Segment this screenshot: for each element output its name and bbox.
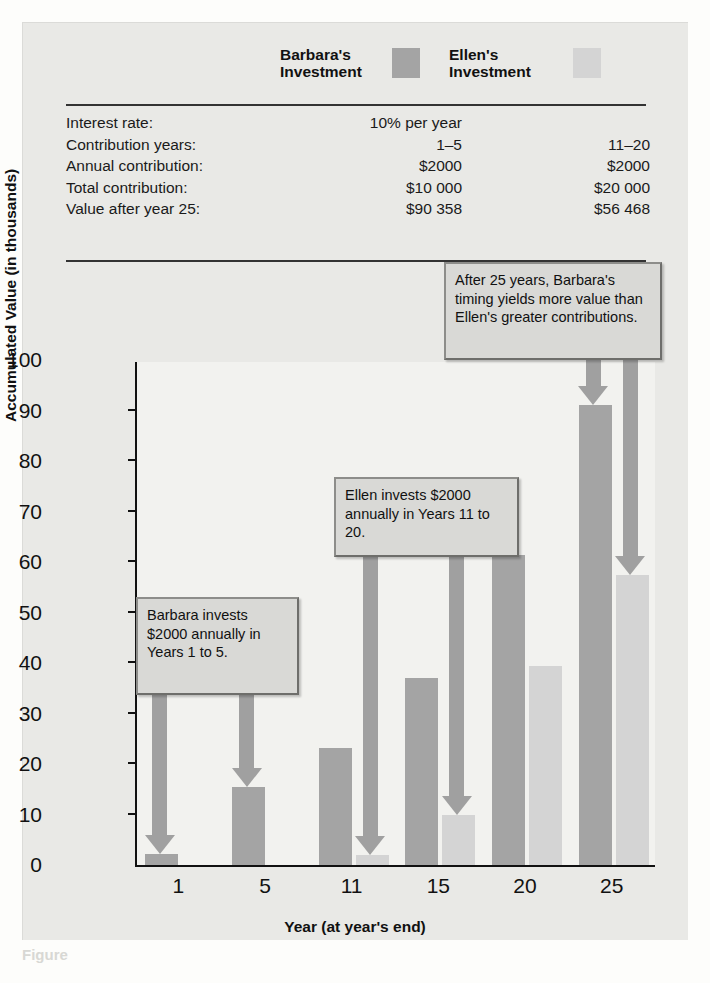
bar-ellen (442, 815, 475, 865)
x-tick-label: 1 (148, 874, 208, 898)
chart-legend: Barbara's InvestmentBarbara'sInvestment … (22, 22, 688, 94)
y-tick-label: 40 (0, 651, 42, 675)
row-value-ellen: $20 000 (464, 179, 650, 197)
row-value-barbara: 1–5 (266, 136, 462, 154)
x-tick-label: 20 (495, 874, 555, 898)
y-tick-label: 100 (0, 348, 42, 372)
y-tick-mark (128, 510, 137, 512)
y-tick-mark (128, 762, 137, 764)
x-tick-label: 15 (408, 874, 468, 898)
y-tick-mark (128, 409, 137, 411)
y-tick-mark (128, 459, 137, 461)
row-value-ellen: $56 468 (464, 200, 650, 218)
row-value-ellen: 11–20 (464, 136, 650, 154)
legend-label-ellen: Ellen'sInvestment (449, 46, 531, 80)
legend-label-barbara: Barbara's InvestmentBarbara'sInvestment (280, 46, 362, 80)
y-axis-title: Accumulated Value (in thousands) (2, 169, 20, 422)
legend-swatch-barbara (392, 48, 420, 78)
bar-ellen (529, 666, 562, 865)
bar-barbara (145, 854, 178, 865)
legend-swatch-ellen (573, 48, 601, 78)
table-row: Interest rate: 10% per year (66, 114, 646, 136)
row-label: Interest rate: (66, 114, 153, 132)
y-tick-label: 60 (0, 550, 42, 574)
row-value-barbara: $2000 (266, 157, 462, 175)
table-row: Total contribution: $10 000 $20 000 (66, 179, 646, 201)
bar-barbara (405, 678, 438, 865)
y-tick-mark (128, 813, 137, 815)
y-tick-mark (128, 712, 137, 714)
y-tick-label: 0 (0, 853, 42, 877)
y-tick-mark (128, 560, 137, 562)
summary-table: Interest rate: 10% per year Contribution… (66, 114, 646, 222)
callout-summary: After 25 years, Barbara's timing yields … (444, 262, 662, 360)
row-label: Contribution years: (66, 136, 196, 154)
x-tick-label: 25 (582, 874, 642, 898)
bar-barbara (579, 405, 612, 865)
bar-barbara (319, 748, 352, 865)
figure-panel: Barbara's InvestmentBarbara'sInvestment … (22, 22, 688, 940)
table-row: Annual contribution: $2000 $2000 (66, 157, 646, 179)
y-tick-label: 50 (0, 601, 42, 625)
y-tick-label: 20 (0, 752, 42, 776)
callout-ellen: Ellen invests $2000 annually in Years 11… (334, 477, 519, 557)
divider-top (66, 104, 646, 106)
y-tick-label: 90 (0, 399, 42, 423)
y-tick-label: 30 (0, 702, 42, 726)
bar-ellen (356, 855, 389, 865)
row-value-barbara: $90 358 (266, 200, 462, 218)
bar-barbara (492, 555, 525, 865)
y-tick-label: 80 (0, 449, 42, 473)
row-label: Total contribution: (66, 179, 188, 197)
y-tick-label: 70 (0, 500, 42, 524)
bar-ellen (616, 575, 649, 865)
figure-caption: Figure (22, 946, 68, 963)
table-row: Value after year 25: $90 358 $56 468 (66, 200, 646, 222)
y-tick-label: 10 (0, 803, 42, 827)
row-label: Value after year 25: (66, 200, 200, 218)
table-row: Contribution years: 1–5 11–20 (66, 136, 646, 158)
callout-barbara: Barbara invests $2000 annually in Years … (136, 597, 299, 695)
bar-barbara (232, 787, 265, 865)
row-value-barbara: $10 000 (266, 179, 462, 197)
x-tick-label: 11 (322, 874, 382, 898)
x-axis-title: Year (at year's end) (22, 918, 688, 936)
row-label: Annual contribution: (66, 157, 203, 175)
row-value-barbara: 10% per year (266, 114, 462, 132)
row-value-ellen: $2000 (464, 157, 650, 175)
x-tick-label: 5 (235, 874, 295, 898)
